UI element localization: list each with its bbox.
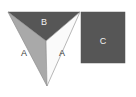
- geometric-figure: C B A A: [0, 0, 136, 97]
- top-triangle-b-label: B: [41, 17, 47, 27]
- rectangle-c-label: C: [100, 36, 107, 46]
- figure-canvas: C B A A: [0, 0, 136, 97]
- right-triangle-a-label: A: [59, 48, 65, 58]
- left-triangle-a-label: A: [21, 48, 27, 58]
- region-rectangle-c[interactable]: C: [81, 12, 125, 63]
